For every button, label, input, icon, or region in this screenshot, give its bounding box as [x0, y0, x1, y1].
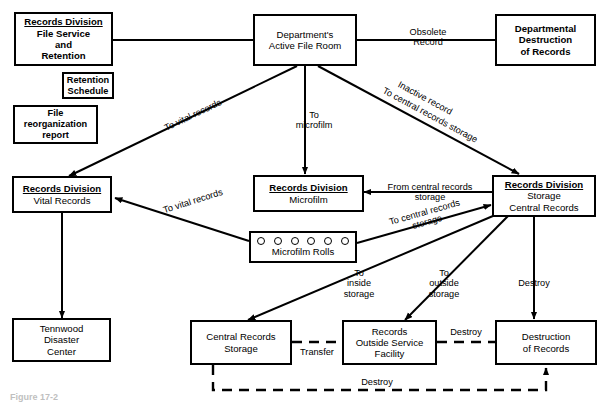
node-title: Records Division [23, 183, 101, 194]
label-line: To [283, 110, 345, 120]
label-line: outside [415, 278, 473, 288]
edge-label-to-outside-storage: To outside storage [415, 268, 473, 299]
label-line: microfilm [283, 120, 345, 130]
edge-label-transfer: Transfer [288, 347, 346, 357]
flowchart-canvas: Records Division File Service and Retent… [0, 0, 604, 407]
node-line: Microfilm [289, 194, 327, 205]
node-line: Schedule [68, 86, 109, 97]
node-line: Outside Service [356, 337, 424, 348]
node-line: of Records [523, 343, 569, 354]
node-records-division-vital-records[interactable]: Records Division Vital Records [12, 176, 112, 213]
node-microfilm-rolls[interactable]: Microfilm Rolls [249, 231, 357, 263]
node-central-records-storage[interactable]: Central Records Storage [190, 320, 292, 365]
roll-icon [341, 237, 349, 245]
label-line: From central records [371, 182, 489, 192]
node-line: Disaster [44, 334, 79, 345]
edge-label-destroy-vertical: Destroy [505, 278, 563, 288]
node-line: Department's [277, 29, 334, 40]
node-line: Active File Room [269, 40, 342, 51]
roll-icon [291, 237, 299, 245]
node-departments-active-file-room[interactable]: Department's Active File Room [253, 14, 357, 66]
label-line: To [415, 268, 473, 278]
node-line: Tennwood [40, 323, 84, 334]
edge-label-destroy-bottom: Destroy [348, 377, 406, 387]
node-line: Microfilm Rolls [272, 246, 334, 257]
node-records-division-microfilm[interactable]: Records Division Microfilm [253, 175, 364, 212]
node-line: Center [47, 346, 76, 357]
node-line: Storage [527, 190, 561, 201]
node-records-outside-service-facility[interactable]: Records Outside Service Facility [342, 320, 437, 365]
edge-label-to-central-records-storage-top: To central records storage [362, 76, 497, 155]
roll-icon [274, 237, 282, 245]
node-line: Retention [67, 75, 109, 86]
edge-label-to-vital-records-rolls: To vital records [144, 181, 243, 221]
label-line: storage [330, 289, 388, 299]
edge-label-obsolete-record: Obsolete Record [398, 27, 458, 48]
node-line: Storage [224, 343, 258, 354]
node-line: reorganization [24, 119, 87, 130]
node-retention-schedule[interactable]: Retention Schedule [62, 72, 114, 99]
node-line: File Service [37, 28, 90, 39]
edge-label-to-microfilm: To microfilm [283, 110, 345, 131]
node-line: Vital Records [34, 195, 91, 206]
node-line: Destruction [522, 331, 571, 342]
node-title: Records Division [505, 179, 583, 190]
node-file-reorganization-report[interactable]: File reorganization report [13, 105, 98, 144]
roll-icon [257, 237, 265, 245]
label-line: Record [398, 37, 458, 47]
node-records-division-storage-central-records[interactable]: Records Division Storage Central Records [492, 175, 596, 217]
node-line: of Records [520, 46, 570, 57]
edge-label-destroy-outside: Destroy [437, 327, 495, 337]
edge-label-to-vital-records-top: To vital records [146, 89, 241, 142]
node-line: and [55, 39, 72, 50]
label-line: To [330, 268, 388, 278]
edge-active-room-to-storage-central [318, 66, 519, 174]
node-line: report [42, 130, 69, 141]
node-line: Central Records [206, 331, 275, 342]
node-tennwood-disaster-center[interactable]: Tennwood Disaster Center [12, 318, 111, 362]
label-line: storage [415, 289, 473, 299]
node-line: Records [372, 326, 408, 337]
roll-icon [307, 237, 315, 245]
label-line: inside [330, 278, 388, 288]
node-line: Departmental [515, 23, 576, 34]
label-line: Obsolete [398, 27, 458, 37]
node-destruction-of-records[interactable]: Destruction of Records [495, 320, 597, 365]
figure-caption: Figure 17-2 [10, 392, 58, 402]
node-line: Retention [41, 50, 85, 61]
node-line: Facility [375, 348, 405, 359]
node-title: Records Division [269, 182, 347, 193]
node-line: File [48, 108, 64, 119]
node-departmental-destruction-of-records[interactable]: Departmental Destruction of Records [495, 14, 596, 66]
edge-label-to-inside-storage: To inside storage [330, 268, 388, 299]
node-line: Destruction [519, 34, 572, 45]
roll-icon [324, 237, 332, 245]
microfilm-roll-icons [257, 237, 349, 245]
node-line: Central Records [509, 202, 578, 213]
node-records-division-file-service[interactable]: Records Division File Service and Retent… [14, 12, 113, 66]
node-title: Records Division [24, 16, 102, 27]
